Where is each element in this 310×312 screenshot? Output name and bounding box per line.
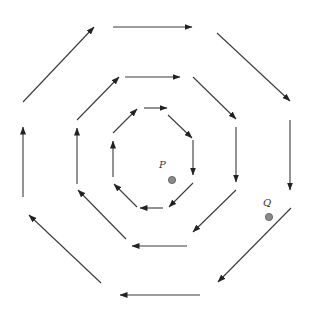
arrow-icon: [169, 183, 193, 207]
arrow-icon: [218, 208, 291, 282]
point-p-label: P: [158, 159, 166, 170]
octagon-inner: [113, 108, 193, 208]
arrow-icon: [23, 27, 94, 102]
arrow-icon: [29, 215, 101, 283]
point-q-label: Q: [263, 197, 271, 208]
arrow-icon: [168, 115, 192, 138]
diagram-svg: PQ: [0, 0, 310, 312]
arrow-icon: [77, 77, 119, 120]
labeled-points: PQ: [158, 159, 273, 221]
arrow-icon: [78, 190, 126, 239]
arrow-icon: [114, 184, 137, 207]
arrow-icon: [217, 33, 290, 101]
arrow-icon: [113, 109, 137, 133]
octagon-middle: [77, 77, 236, 246]
arrow-icon: [193, 77, 236, 119]
point-q-marker: [265, 213, 272, 220]
arrow-icon: [193, 190, 236, 232]
point-p-marker: [168, 176, 175, 183]
octagon-outer: [23, 27, 291, 295]
octagon-arrows: [23, 27, 291, 295]
vector-field-diagram: PQ: [0, 0, 310, 312]
